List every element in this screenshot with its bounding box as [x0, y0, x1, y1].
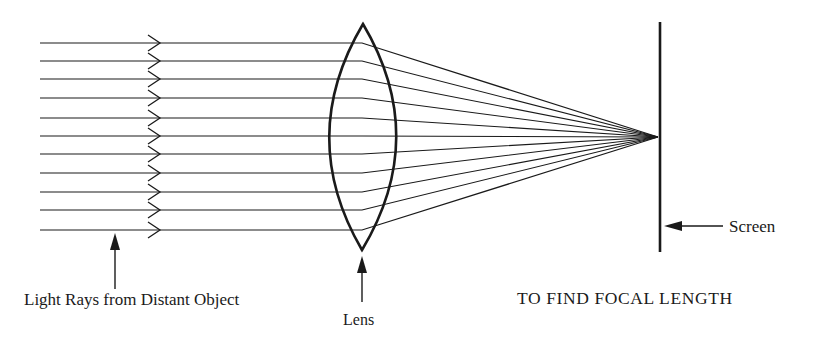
screen-pointer-arrow-icon — [664, 221, 723, 231]
focal-length-diagram: Light Rays from Distant Object Lens Scre… — [0, 0, 815, 338]
light-rays — [40, 43, 658, 230]
light-ray — [40, 61, 658, 137]
light-ray — [40, 137, 658, 230]
lens-pointer-arrow-icon — [357, 256, 367, 302]
light-rays-label: Light Rays from Distant Object — [24, 290, 240, 309]
lens-label: Lens — [343, 311, 374, 328]
light-ray — [40, 136, 658, 137]
light-ray — [40, 43, 658, 137]
convex-lens — [329, 24, 396, 250]
light-rays-pointer-arrow-icon — [110, 233, 120, 289]
light-ray — [40, 137, 658, 154]
screen-label: Screen — [729, 217, 776, 236]
diagram-title: TO FIND FOCAL LENGTH — [517, 288, 733, 308]
light-ray — [40, 118, 658, 137]
light-ray — [40, 137, 658, 192]
